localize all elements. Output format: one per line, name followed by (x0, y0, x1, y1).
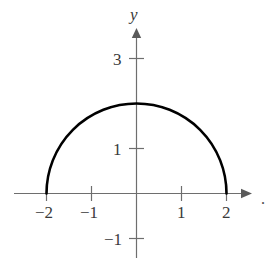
graph-figure: y −2 −1 1 2 3 1 −1 . (0, 0, 268, 263)
x-tick-label-2: 2 (222, 204, 231, 221)
y-tick-label-3: 3 (113, 51, 122, 68)
x-tick-label-1: 1 (177, 204, 186, 221)
x-axis-arrowhead (241, 189, 252, 198)
y-tick-label-1: 1 (113, 141, 122, 158)
trailing-period-mark: . (261, 191, 265, 207)
x-tick-label--2: −2 (35, 204, 53, 221)
y-tick-label--1: −1 (104, 231, 122, 248)
y-axis-arrowhead (132, 28, 141, 38)
x-tick-label--1: −1 (80, 204, 98, 221)
coordinate-plot (0, 0, 268, 263)
y-axis-label: y (130, 6, 138, 23)
